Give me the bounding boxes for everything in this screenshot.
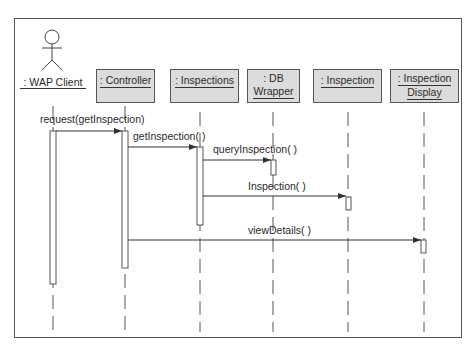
- message-label-4: Inspection( ): [248, 180, 306, 192]
- activation-dbwrapper: [271, 160, 276, 175]
- message-label-3: queryInspection( ): [213, 143, 297, 155]
- diagram-lines: [0, 0, 475, 352]
- actor-label: : WAP Client: [20, 76, 86, 89]
- activation-inspection: [346, 197, 351, 210]
- object-controller: : Controller: [96, 69, 155, 103]
- object-inspectiondisplay: : Inspection Display: [390, 69, 459, 103]
- message-label-1: request(getInspection): [40, 113, 144, 125]
- object-dbwrapper: : DB Wrapper: [247, 69, 300, 103]
- message-label-2: getInspection( ): [133, 130, 205, 142]
- activation-inspections: [197, 147, 203, 225]
- activation-controller: [122, 131, 128, 268]
- actor-icon: [42, 30, 62, 70]
- object-inspections: : Inspections: [170, 69, 239, 103]
- activation-wapclient: [50, 131, 56, 284]
- activation-inspectiondisplay: [421, 240, 426, 253]
- object-inspection: : Inspection: [313, 69, 382, 103]
- message-label-5: viewDetails( ): [248, 224, 311, 236]
